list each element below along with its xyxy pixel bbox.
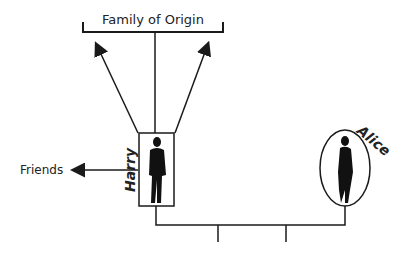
arrow-to-origin-right (175, 52, 205, 133)
marriage-line (156, 206, 345, 225)
family-of-origin-label: Family of Origin (102, 12, 204, 27)
friends-label: Friends (20, 163, 63, 177)
family-diagram: Family of Origin Harry Friends Alice (0, 0, 401, 255)
arrow-to-origin-left (100, 52, 138, 133)
